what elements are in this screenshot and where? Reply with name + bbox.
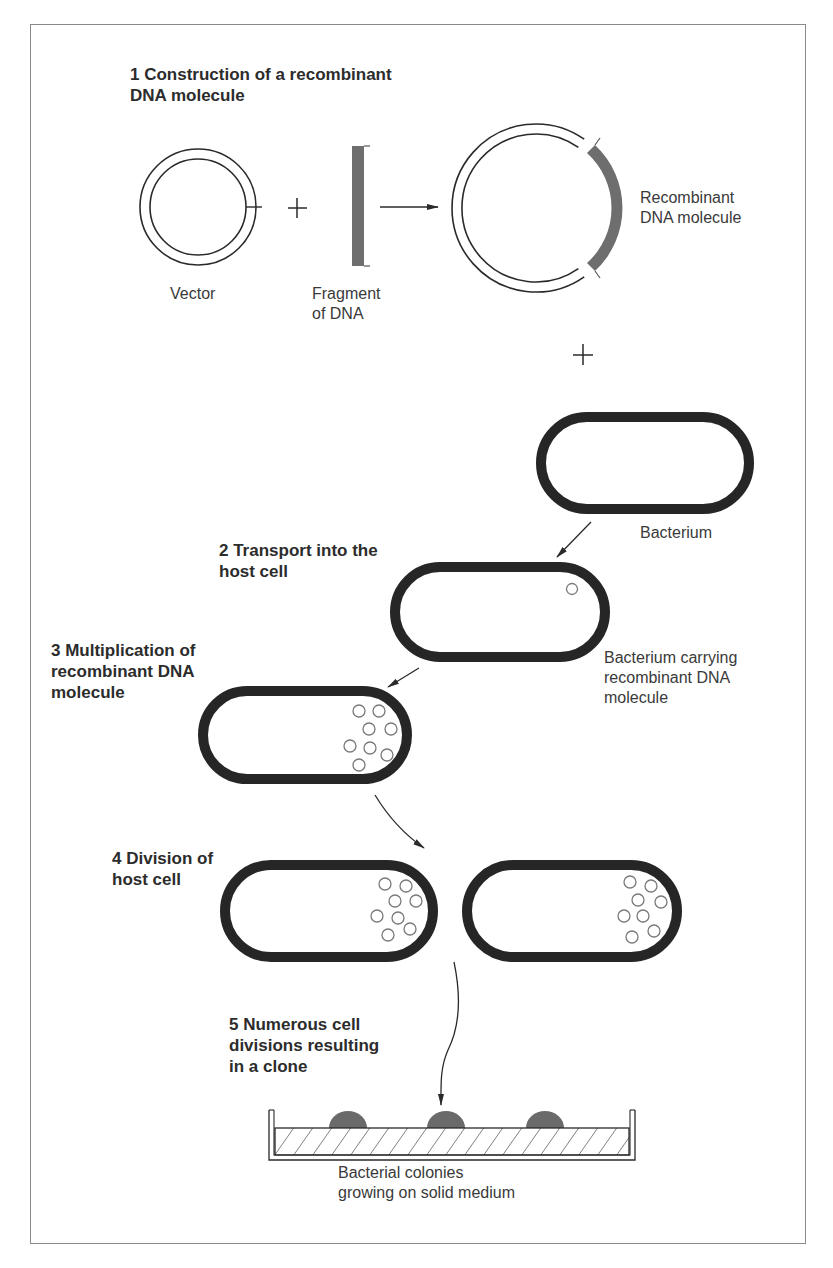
arrow-icon: [557, 522, 591, 557]
arrow-icon: [375, 795, 424, 848]
arrow-icon: [388, 668, 419, 687]
petri-dish-icon: [269, 1110, 635, 1160]
step-3-title: 3 Multiplication of recombinant DNA mole…: [51, 640, 196, 703]
step-5-title: 5 Numerous cell divisions resulting in a…: [229, 1014, 379, 1077]
step-1-title: 1 Construction of a recombinant DNA mole…: [130, 64, 392, 106]
daughter-cell-right-icon: [467, 865, 677, 957]
bacterium-multiplied-plasmids-icon: [203, 691, 407, 779]
step-2-title: 2 Transport into the host cell: [219, 540, 378, 582]
bacterium-carrying-label: Bacterium carrying recombinant DNA molec…: [604, 648, 737, 708]
arrow-icon: [441, 962, 458, 1105]
plus-icon: [573, 344, 593, 365]
bacterium-cell-icon: [541, 417, 749, 509]
dna-fragment-icon: [352, 146, 370, 266]
plus-icon: [288, 198, 307, 218]
bacterium-label: Bacterium: [640, 523, 712, 543]
fragment-label: Fragment of DNA: [312, 284, 380, 324]
step-4-title: 4 Division of host cell: [112, 848, 213, 890]
vector-label: Vector: [170, 284, 215, 304]
recombinant-label: Recombinant DNA molecule: [640, 188, 741, 228]
recombinant-plasmid-icon: [452, 124, 622, 292]
colonies-label: Bacterial colonies growing on solid medi…: [338, 1163, 515, 1203]
daughter-cell-left-icon: [225, 865, 433, 957]
vector-plasmid-icon: [140, 149, 262, 265]
bacterium-with-plasmid-icon: [395, 567, 605, 657]
